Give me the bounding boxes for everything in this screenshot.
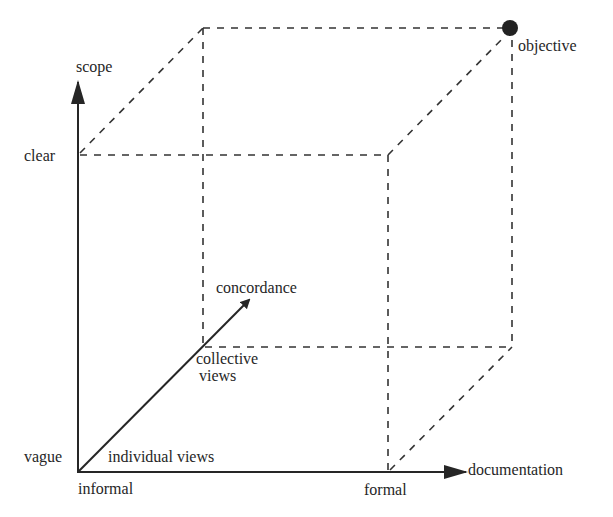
collective-views-label-line1: collective	[196, 350, 258, 367]
formal-label: formal	[364, 481, 407, 498]
cube-diagram: scope clear vague informal formal docume…	[0, 0, 613, 517]
scope-label: scope	[76, 58, 112, 76]
concordance-label: concordance	[216, 279, 297, 296]
objective-marker-dot	[502, 20, 518, 36]
collective-views-label-line2: views	[199, 367, 236, 384]
depth-edge-top-left	[80, 28, 203, 153]
individual-views-label: individual views	[108, 448, 214, 465]
depth-edge-top-right	[388, 36, 505, 155]
documentation-label: documentation	[468, 461, 563, 478]
objective-label: objective	[518, 37, 577, 55]
concordance-axis-arrow	[78, 300, 249, 472]
depth-edge-bottom-right	[390, 347, 512, 470]
vague-label: vague	[24, 448, 62, 466]
clear-label: clear	[24, 147, 56, 164]
informal-label: informal	[78, 480, 134, 497]
